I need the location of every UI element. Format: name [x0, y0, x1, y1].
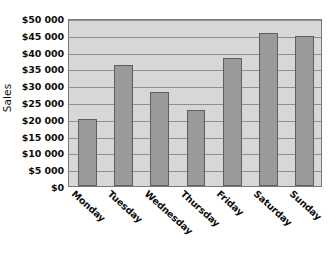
bar[interactable] [223, 58, 242, 186]
y-tick-label: $0 [51, 182, 64, 193]
bar[interactable] [259, 33, 278, 186]
x-axis-tick-labels: MondayTuesdayWednesdayThursdayFridaySatu… [68, 188, 322, 255]
x-tick-label: Friday [215, 188, 246, 218]
x-tick-label: Monday [70, 188, 108, 224]
plot-area [68, 19, 322, 187]
x-tick-label: Sunday [287, 188, 323, 222]
y-tick-label: $45 000 [22, 30, 64, 41]
y-tick-label: $10 000 [22, 148, 64, 159]
x-tick-label: Saturday [251, 188, 294, 228]
y-tick-label: $20 000 [22, 114, 64, 125]
y-tick-label: $25 000 [22, 98, 64, 109]
bar[interactable] [114, 65, 133, 186]
y-axis-tick-labels: $0$5 000$10 000$15 000$20 000$25 000$30 … [12, 19, 66, 187]
y-tick-label: $15 000 [22, 131, 64, 142]
y-tick-label: $40 000 [22, 47, 64, 58]
bar[interactable] [78, 119, 97, 186]
bars-group [69, 20, 321, 186]
x-tick-label: Tuesday [106, 188, 145, 225]
y-tick-label: $50 000 [22, 14, 64, 25]
y-tick-label: $35 000 [22, 64, 64, 75]
y-tick-label: $30 000 [22, 81, 64, 92]
y-tick-label: $5 000 [28, 165, 64, 176]
sales-bar-chart: Sales $0$5 000$10 000$15 000$20 000$25 0… [0, 0, 336, 255]
bar[interactable] [295, 36, 314, 186]
bar[interactable] [187, 110, 206, 186]
bar[interactable] [150, 92, 169, 186]
